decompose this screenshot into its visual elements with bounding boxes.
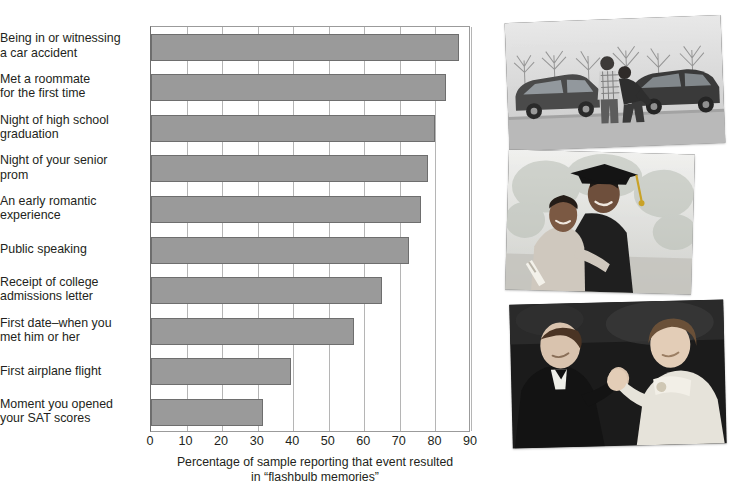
y-axis-label-line2: met him or her [0, 330, 140, 345]
bar [151, 399, 263, 426]
y-axis-label-line1: Public speaking [0, 242, 140, 257]
bar-row [151, 352, 469, 393]
x-axis-caption-line1: Percentage of sample reporting that even… [150, 455, 480, 470]
x-tick-60: 60 [356, 434, 370, 448]
bar-chart: Being in or witnessinga car accidentMet … [0, 0, 500, 494]
bar-row [151, 149, 469, 190]
y-axis-label-line2: graduation [0, 127, 140, 142]
y-axis-labels: Being in or witnessinga car accidentMet … [0, 26, 146, 432]
x-axis-tick-labels: 0102030405060708090 [150, 432, 472, 448]
y-axis-label: Public speaking [0, 242, 140, 257]
prom-dance-photo [509, 299, 726, 448]
y-axis-label: Night of high schoolgraduation [0, 113, 140, 142]
bar-row [151, 392, 469, 433]
y-axis-label-line2: admissions letter [0, 289, 140, 304]
x-tick-80: 80 [427, 434, 441, 448]
y-axis-label-line1: First airplane flight [0, 364, 140, 379]
photo-collage [497, 0, 734, 494]
y-axis-label: Receipt of collegeadmissions letter [0, 275, 140, 304]
x-axis-caption: Percentage of sample reporting that even… [150, 455, 480, 485]
graduation-photo [505, 149, 695, 294]
x-axis-caption-line2: in “flashbulb memories” [150, 470, 480, 485]
x-tick-10: 10 [179, 434, 193, 448]
bar [151, 358, 291, 385]
y-axis-label: An early romanticexperience [0, 194, 140, 223]
y-axis-label-line1: Night of your senior [0, 153, 140, 168]
bar-row [151, 189, 469, 230]
y-axis-label-line1: Receipt of college [0, 275, 140, 290]
y-axis-label: Being in or witnessinga car accident [0, 31, 140, 60]
x-tick-70: 70 [392, 434, 406, 448]
bar-row [151, 108, 469, 149]
bar [151, 115, 435, 142]
bar [151, 237, 409, 264]
plot-area [150, 26, 470, 432]
bar-row [151, 27, 469, 68]
y-axis-label: First airplane flight [0, 364, 140, 379]
bar-row [151, 271, 469, 312]
y-axis-label-line1: Night of high school [0, 113, 140, 128]
bar [151, 318, 354, 345]
bar [151, 74, 446, 101]
x-tick-30: 30 [250, 434, 264, 448]
x-tick-20: 20 [214, 434, 228, 448]
y-axis-label-line1: Moment you opened [0, 397, 140, 412]
y-axis-label-line1: Being in or witnessing [0, 31, 140, 46]
figure-root: Being in or witnessinga car accidentMet … [0, 0, 734, 494]
y-axis-label: Met a roommatefor the first time [0, 72, 140, 101]
y-axis-label: First date–when youmet him or her [0, 316, 140, 345]
y-axis-label-line2: prom [0, 168, 140, 183]
x-tick-90: 90 [463, 434, 477, 448]
car-accident-photo [505, 15, 726, 151]
bar [151, 277, 382, 304]
y-axis-label-line2: your SAT scores [0, 411, 140, 426]
bar-row [151, 311, 469, 352]
y-axis-label-line2: a car accident [0, 46, 140, 61]
x-tick-40: 40 [285, 434, 299, 448]
gridline-90 [471, 27, 472, 431]
bar-rows [151, 27, 469, 431]
y-axis-label-line2: for the first time [0, 86, 140, 101]
bar [151, 155, 428, 182]
y-axis-label-line1: Met a roommate [0, 72, 140, 87]
x-tick-50: 50 [321, 434, 335, 448]
bar [151, 196, 421, 223]
y-axis-label-line2: experience [0, 208, 140, 223]
y-axis-label: Moment you openedyour SAT scores [0, 397, 140, 426]
bar-row [151, 68, 469, 109]
y-axis-label-line1: An early romantic [0, 194, 140, 209]
bar-row [151, 230, 469, 271]
y-axis-label: Night of your seniorprom [0, 153, 140, 182]
y-axis-label-line1: First date–when you [0, 316, 140, 331]
bar [151, 34, 459, 61]
x-tick-0: 0 [146, 434, 153, 448]
